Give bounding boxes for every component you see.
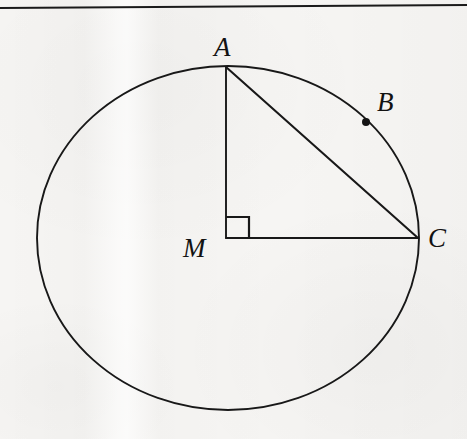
point-b-dot bbox=[362, 118, 370, 126]
label-point-c: C bbox=[428, 225, 447, 252]
right-angle-square bbox=[226, 217, 249, 239]
label-point-b: B bbox=[377, 89, 394, 116]
diagram-page: A B C M bbox=[0, 0, 467, 439]
geometry-figure bbox=[0, 0, 467, 439]
label-point-a: A bbox=[214, 34, 231, 61]
label-point-m: M bbox=[183, 235, 206, 262]
page-rule bbox=[0, 5, 467, 8]
